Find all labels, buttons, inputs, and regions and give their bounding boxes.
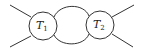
vertex-t2-label: T2 [93, 19, 105, 32]
vertex-t2-label-sub: 2 [100, 24, 104, 32]
external-line-left-upper [10, 5, 31, 17]
external-line-left-lower [10, 36, 31, 47]
external-line-right-upper [112, 5, 134, 17]
internal-line-bottom-arc [54, 34, 89, 44]
internal-line-top-arc [54, 6, 89, 17]
vertex-t1-label-sub: 1 [43, 25, 47, 33]
diagram-svg [0, 0, 143, 51]
diagram-canvas: T1 T2 [0, 0, 143, 51]
external-line-right-lower [112, 34, 133, 47]
vertex-t1-label: T1 [36, 20, 48, 33]
